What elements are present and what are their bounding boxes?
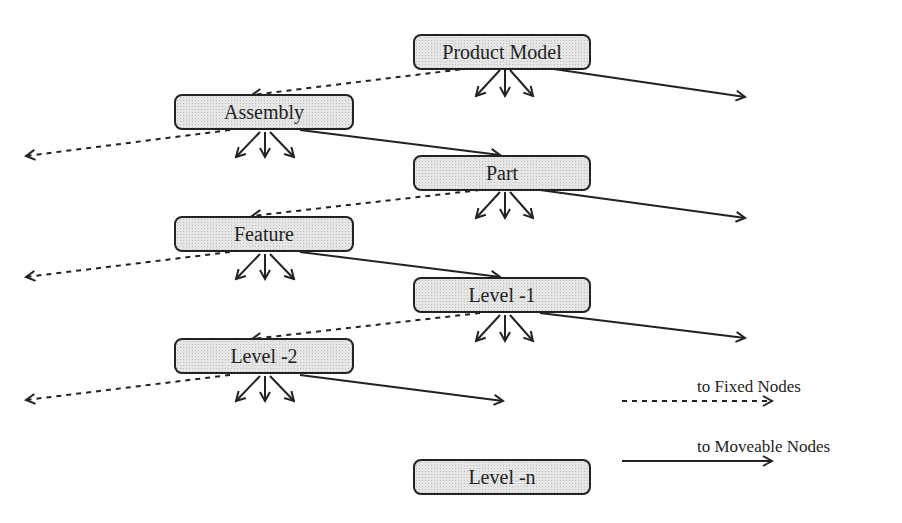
legend-fixed-label: to Fixed Nodes (697, 377, 801, 397)
node-label: Feature (234, 223, 294, 246)
node-level-n: Level -n (413, 459, 591, 495)
node-assembly: Assembly (174, 94, 354, 130)
node-label: Level -1 (468, 284, 535, 307)
node-label: Level -n (468, 466, 535, 489)
legend-moveable-label: to Moveable Nodes (697, 437, 830, 457)
node-label: Product Model (442, 41, 561, 64)
node-label: Level -2 (230, 345, 297, 368)
node-level-1: Level -1 (413, 277, 591, 313)
node-label: Assembly (224, 101, 304, 124)
node-label: Part (486, 162, 518, 185)
node-feature: Feature (174, 216, 354, 252)
node-product-model: Product Model (413, 34, 591, 70)
node-part: Part (413, 155, 591, 191)
node-level-2: Level -2 (174, 338, 354, 374)
